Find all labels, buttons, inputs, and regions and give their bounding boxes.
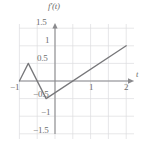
y-tick-label-neg1: −1	[41, 108, 50, 117]
y-tick-label-1: 1	[45, 36, 49, 45]
x-axis-name: t	[136, 70, 138, 79]
x-tick-label-2: 2	[124, 83, 128, 92]
y-tick-label-neg0p5: −0.5	[33, 90, 49, 99]
y-axis	[52, 23, 57, 134]
plot-canvas	[0, 0, 145, 146]
y-tick-label-1p5: 1.5	[36, 18, 47, 27]
function-label: f'(t)	[48, 2, 60, 11]
x-tick-label-neg1: −1	[10, 83, 19, 92]
graph-figure: f'(t) 1.5 1 0.5 −0.5 −1 −1.5 −1 1 2 t	[0, 0, 145, 146]
y-tick-label-neg1p5: −1.5	[33, 126, 49, 135]
y-tick-label-0p5: 0.5	[37, 54, 48, 63]
x-tick-label-1: 1	[89, 83, 93, 92]
